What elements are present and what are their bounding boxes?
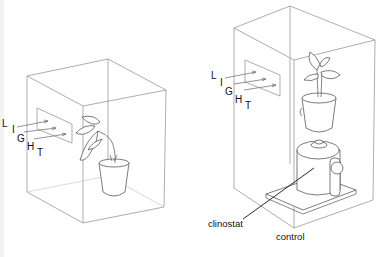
right-plant-pot [300,93,336,132]
right-experiment: L I G H T [208,6,375,242]
right-light-letter-l: L [211,70,217,81]
right-plant [304,52,340,97]
left-plant-pot [99,159,129,196]
right-light-letter-g: G [225,86,233,97]
left-light-letter-t: T [37,147,43,158]
phototropism-diagram: L I G H T [0,0,383,257]
clinostat-label: clinostat [208,218,243,229]
left-light-letter-g: G [17,133,25,144]
left-light-letter-h: H [27,141,34,152]
left-plant [76,116,117,163]
right-light-letter-i: I [220,77,223,88]
control-label: control [276,231,305,242]
left-experiment: L I G H T [2,59,166,223]
left-light-letter-i: I [12,124,15,135]
right-light-letter-h: H [235,94,242,105]
left-light-letter-l: L [2,118,8,129]
right-light-letter-t: T [245,100,251,111]
